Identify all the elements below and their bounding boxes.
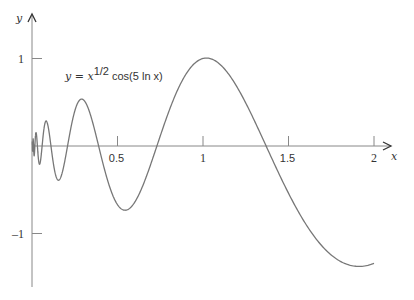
x-tick-label: 0.5 — [109, 152, 124, 164]
x-tick-label: 1.5 — [280, 152, 295, 164]
annotation-rhs: cos(5 ln x) — [109, 70, 163, 82]
x-tick-label: 1 — [200, 151, 206, 165]
function-plot: 0.511.521–1 y x y = x1/2 cos(5 ln x) — [0, 0, 414, 300]
y-tick-label: 1 — [18, 52, 24, 66]
function-annotation: y = x1/2 cos(5 ln x) — [64, 65, 163, 83]
x-axis-label: x — [391, 150, 398, 163]
x-tick-label: 2 — [371, 151, 377, 165]
annotation-lhs: y = x — [64, 70, 94, 83]
y-tick-label: –1 — [11, 227, 24, 241]
y-axis-label: y — [15, 12, 23, 25]
annotation-exponent: 1/2 — [94, 65, 109, 77]
axes: 0.511.521–1 — [11, 14, 391, 287]
